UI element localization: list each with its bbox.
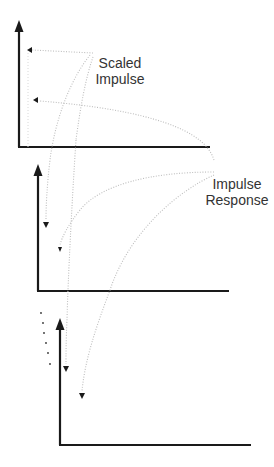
- arrowhead-left-icon: [33, 97, 38, 103]
- impulse-response-label: Impulse Response: [204, 176, 270, 208]
- curve-response-to-middle-2: [60, 172, 214, 245]
- curve-scaled-to-middle-1: [46, 55, 90, 220]
- curve-response-to-top-2: [40, 101, 214, 160]
- impulse-response-line2: Response: [204, 192, 270, 208]
- y-axis-arrowhead-icon: [34, 164, 43, 176]
- curve-scaled-to-middle-2: [76, 57, 93, 140]
- curve-scaled-to-top-1: [32, 50, 93, 53]
- arrowhead-down-icon: [43, 222, 49, 228]
- scaled-impulse-label: Scaled Impulse: [94, 55, 146, 87]
- curve-to-bottom-1: [66, 140, 76, 364]
- arrowhead-left-icon: [27, 47, 32, 53]
- plot-bottom: [56, 318, 252, 445]
- scaled-impulse-line1: Scaled: [94, 55, 146, 71]
- curve-response-to-bottom-2: [82, 175, 214, 391]
- scaled-impulse-line2: Impulse: [94, 71, 146, 87]
- ellipsis-dots: [40, 312, 51, 365]
- impulse-response-line1: Impulse: [204, 176, 270, 192]
- arrowhead-down-icon: [79, 393, 85, 399]
- arrowhead-down-icon: [58, 247, 62, 252]
- y-axis-arrowhead-icon: [15, 20, 24, 32]
- arrowhead-down-icon: [63, 366, 69, 372]
- plot-middle: [34, 164, 230, 291]
- y-axis-arrowhead-icon: [56, 318, 65, 330]
- connector-arrowheads: [27, 47, 85, 399]
